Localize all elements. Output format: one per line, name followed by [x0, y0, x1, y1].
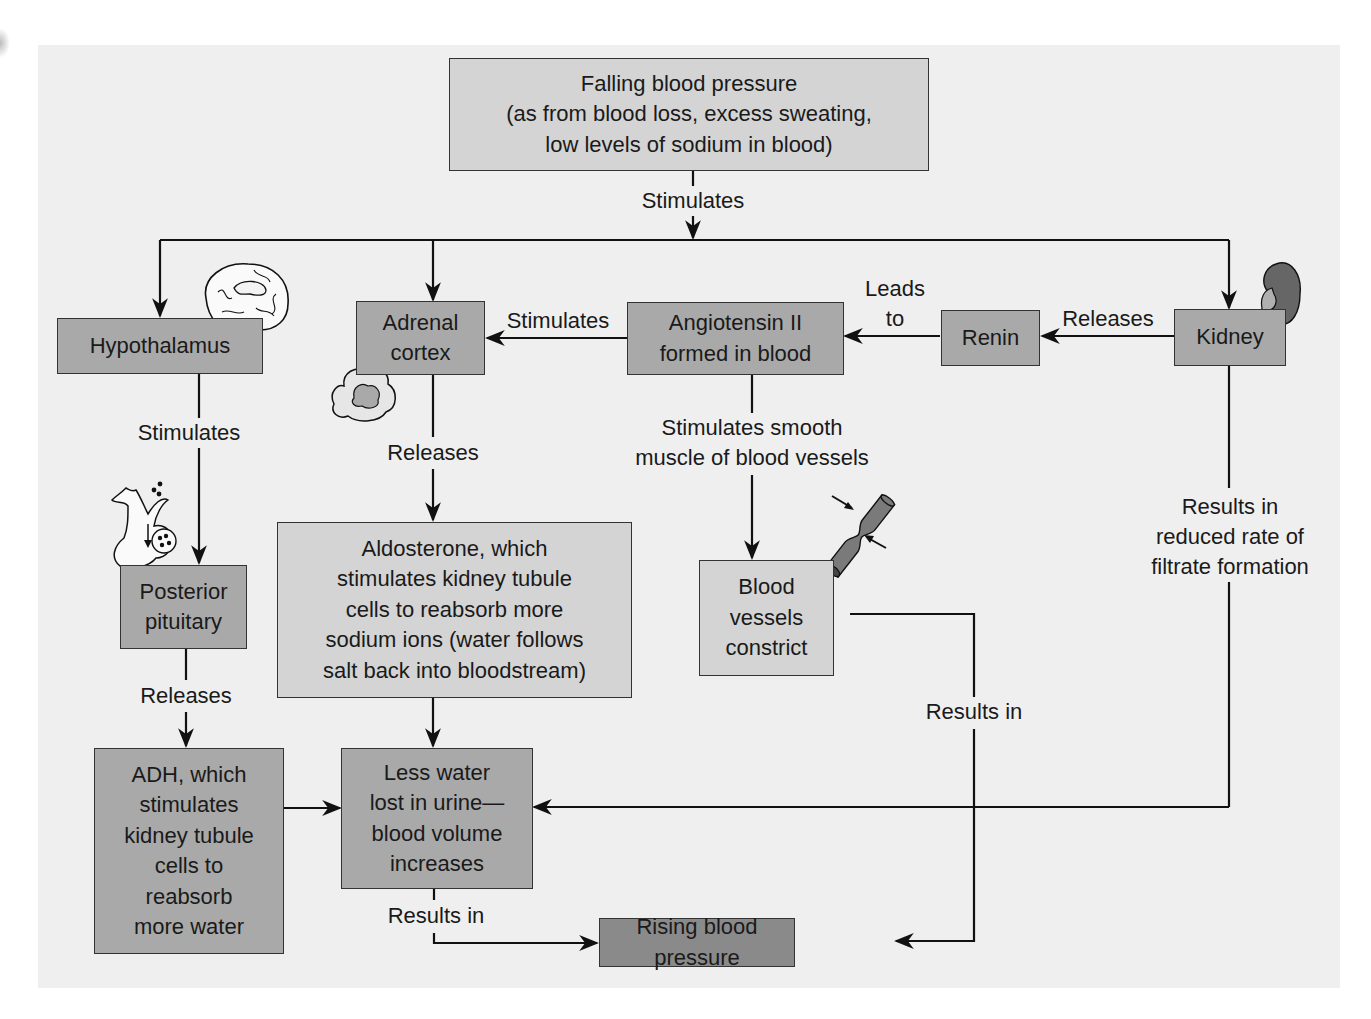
- kidney-box: Kidney: [1174, 309, 1286, 366]
- label-stimulates-top: Stimulates: [628, 186, 758, 216]
- blood-vessels-constrict-box: Blood vessels constrict: [699, 560, 834, 676]
- renin-box: Renin: [941, 310, 1040, 366]
- less-water-box: Less water lost in urine— blood volume i…: [341, 748, 533, 889]
- posterior-pituitary-box: Posterior pituitary: [120, 565, 247, 649]
- label-results-in-vessels: Results in: [912, 697, 1036, 727]
- hypothalamus-box: Hypothalamus: [57, 318, 263, 374]
- label-leads-to: Leads to: [855, 274, 935, 334]
- label-stimulates-adrenal: Stimulates: [492, 306, 624, 336]
- aldosterone-box: Aldosterone, which stimulates kidney tub…: [277, 522, 632, 698]
- label-releases-adh: Releases: [124, 681, 248, 711]
- pituitary-icon: [106, 478, 186, 578]
- label-releases-renin: Releases: [1048, 304, 1168, 334]
- adrenal-cortex-box: Adrenal cortex: [356, 301, 485, 375]
- adh-box: ADH, which stimulates kidney tubule cell…: [94, 748, 284, 954]
- label-stimulates-smooth-muscle: Stimulates smooth muscle of blood vessel…: [600, 413, 904, 473]
- angiotensin-box: Angiotensin II formed in blood: [627, 302, 844, 375]
- label-results-in-volume: Results in: [374, 901, 498, 931]
- page-edge-mark: [0, 28, 10, 58]
- label-releases-aldosterone: Releases: [372, 438, 494, 468]
- rising-blood-pressure-box: Rising blood pressure: [599, 918, 795, 967]
- label-results-in-filtrate: Results in reduced rate of filtrate form…: [1130, 492, 1330, 582]
- falling-blood-pressure-box: Falling blood pressure (as from blood lo…: [449, 58, 929, 171]
- label-stimulates-pituitary: Stimulates: [122, 418, 256, 448]
